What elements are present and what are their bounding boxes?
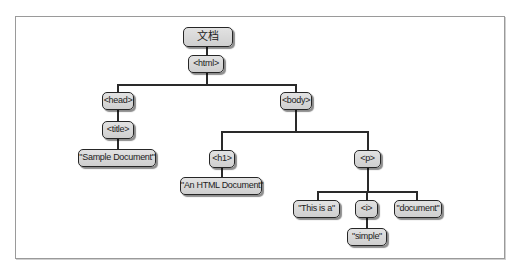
node-p: <p> xyxy=(354,150,381,168)
node-title-text: "Sample Document" xyxy=(78,149,156,167)
edge-to-p xyxy=(367,131,369,150)
edge-root-html xyxy=(206,46,208,55)
edge-title-text xyxy=(117,139,119,149)
edge-body-down xyxy=(295,110,297,131)
edge-p-down xyxy=(367,168,369,191)
node-html: <html> xyxy=(188,55,224,73)
node-title: <title> xyxy=(102,121,134,139)
edge-to-p-text1 xyxy=(317,191,319,200)
edge-to-body xyxy=(295,84,297,92)
node-i-text: "simple" xyxy=(347,228,387,246)
node-p-text1: "This is a" xyxy=(293,200,340,218)
diagram-frame xyxy=(15,16,505,259)
edge-i-text xyxy=(366,218,368,228)
node-body: <body> xyxy=(280,92,312,110)
node-head: <head> xyxy=(102,92,134,110)
edge-body-children-bar xyxy=(221,131,368,133)
node-p-text2: "document" xyxy=(394,200,442,218)
node-document-root: 文档 xyxy=(183,27,233,47)
edge-html-down xyxy=(206,73,208,84)
edge-to-head xyxy=(117,84,119,92)
edge-head-title xyxy=(117,110,119,121)
edge-to-h1 xyxy=(221,131,223,150)
edge-html-children-bar xyxy=(117,84,296,86)
edge-to-p-text2 xyxy=(416,191,418,200)
edge-to-i xyxy=(366,191,368,200)
edge-h1-text xyxy=(221,168,223,177)
node-h1: <h1> xyxy=(209,150,235,168)
node-i: <i> xyxy=(355,200,378,218)
node-h1-text: "An HTML Document" xyxy=(180,177,262,195)
